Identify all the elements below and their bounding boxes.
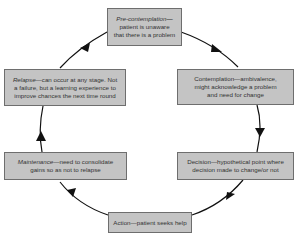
arrow-action-to-maintenance [60,182,108,215]
stage-desc-line: improve chances the next time round [14,92,115,99]
arrowhead-icon [211,44,222,52]
stage-term: Pre-contemplation— [116,15,172,22]
stage-maintenance: Maintenance—need to consolidate gains so… [4,152,127,180]
stage-term: Action—patient seeks help [113,219,186,226]
stage-term: Decision—hypothetical point where [187,158,284,165]
stage-desc-line: gains so as not to relapse [30,166,101,173]
arrow-precontemplation-to-contemplation [181,32,238,67]
arrow-relapse-to-precontemplation [60,32,107,68]
arrow-decision-to-action [192,180,243,215]
stage-desc-line: that there is a problem [114,31,176,38]
stage-action: Action—patient seeks help [108,212,192,233]
stage-relapse: Relapse—can occur at any stage. Not a fa… [4,69,126,106]
arrowhead-icon [67,188,76,197]
stage-desc-line: a failure, but a learning experience to [14,84,116,91]
arrowhead-icon [255,128,265,137]
arrowhead-icon [226,192,235,200]
arrowhead-icon [36,131,46,141]
stage-desc-line: —need to consolidate [53,158,113,165]
arrowhead-icon [80,43,90,52]
stage-desc-line: and need for change [207,91,264,98]
stage-precontemplation: Pre-contemplation— patient is unaware th… [107,8,182,46]
stage-desc-line: patient is unaware [119,23,169,30]
stage-term: Relapse [13,76,36,83]
arrow-maintenance-to-relapse [40,106,43,152]
stage-desc-line: —can occur at any stage. Not [36,76,118,83]
stage-contemplation: Contemplation—ambivalence, might acknowl… [177,69,294,105]
stage-desc-line: might acknowledge a problem [194,83,276,90]
stage-term: Maintenance [18,158,53,165]
stage-term: Contemplation—ambivalence, [194,75,277,82]
stage-desc-line: decision made to change/or not [192,166,278,173]
stage-decision: Decision—hypothetical point where decisi… [177,152,294,180]
